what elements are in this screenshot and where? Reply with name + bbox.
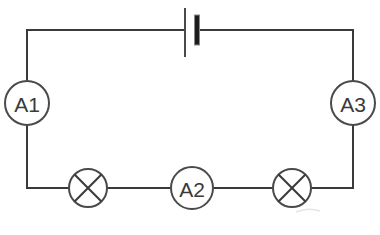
ammeter-a3-label: A3	[340, 93, 366, 116]
wire-group	[27, 30, 353, 188]
ammeter-a3: A3	[331, 81, 375, 125]
ammeter-a1: A1	[5, 81, 49, 125]
ammeter-a2: A2	[171, 167, 213, 209]
ammeter-a1-label: A1	[14, 93, 40, 116]
scan-artifact	[296, 209, 320, 212]
lamp-left	[69, 169, 107, 207]
circuit-diagram: A1 A3 A2	[0, 0, 380, 235]
circuit-canvas: A1 A3 A2	[0, 0, 380, 235]
battery-short-plate	[195, 15, 200, 45]
ammeter-a2-label: A2	[179, 178, 205, 201]
lamp-right	[273, 169, 311, 207]
battery-cell-icon	[185, 8, 200, 57]
